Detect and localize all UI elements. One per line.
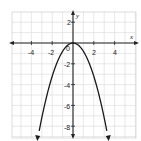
x-tick-label: 2 xyxy=(92,49,96,56)
x-axis-label: x xyxy=(129,33,134,41)
x-tick-label: -2 xyxy=(48,49,54,56)
origin-label: 0 xyxy=(66,45,70,52)
x-tick-label: 4 xyxy=(113,49,117,56)
y-tick-label: -2 xyxy=(64,61,70,68)
y-tick-label: 2 xyxy=(67,19,71,26)
x-tick-label: -4 xyxy=(28,49,34,56)
y-tick-label: -4 xyxy=(64,82,70,89)
x-axis-right-arrow-icon xyxy=(134,41,139,45)
y-axis-up-arrow-icon xyxy=(71,10,75,15)
y-axis-label: y xyxy=(75,12,80,20)
y-tick-label: -6 xyxy=(64,103,70,110)
x-axis-left-arrow-icon xyxy=(9,41,14,45)
parabola-graph: x y 0 -4 -2 2 4 2 -2 -4 -6 -8 xyxy=(0,0,141,141)
grid xyxy=(12,12,136,138)
plot-border xyxy=(12,12,136,138)
y-tick-label: -8 xyxy=(64,124,70,131)
